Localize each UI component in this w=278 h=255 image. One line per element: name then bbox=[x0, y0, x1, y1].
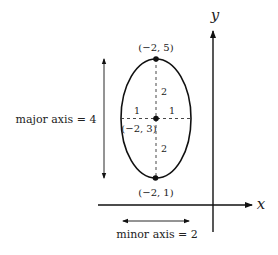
ellipse-diagram: y x (−2, 5) (−2, 3) (−2, 1) 2 2 1 1 majo… bbox=[0, 0, 278, 255]
right-semi-minor-length: 1 bbox=[169, 105, 175, 116]
center-point bbox=[153, 116, 159, 122]
lower-semi-major-length: 2 bbox=[161, 143, 167, 154]
minor-axis-annotation: minor axis = 2 bbox=[116, 228, 198, 241]
x-axis-label: x bbox=[257, 195, 266, 213]
top-vertex-point bbox=[153, 56, 159, 62]
bottom-vertex-point bbox=[153, 175, 159, 181]
y-axis-label: y bbox=[210, 6, 220, 24]
left-semi-minor-length: 1 bbox=[134, 105, 140, 116]
upper-semi-major-length: 2 bbox=[161, 86, 167, 97]
bottom-point-label: (−2, 1) bbox=[138, 187, 173, 198]
major-axis-annotation: major axis = 4 bbox=[16, 113, 97, 126]
top-point-label: (−2, 5) bbox=[138, 42, 173, 53]
center-point-label: (−2, 3) bbox=[121, 123, 156, 134]
